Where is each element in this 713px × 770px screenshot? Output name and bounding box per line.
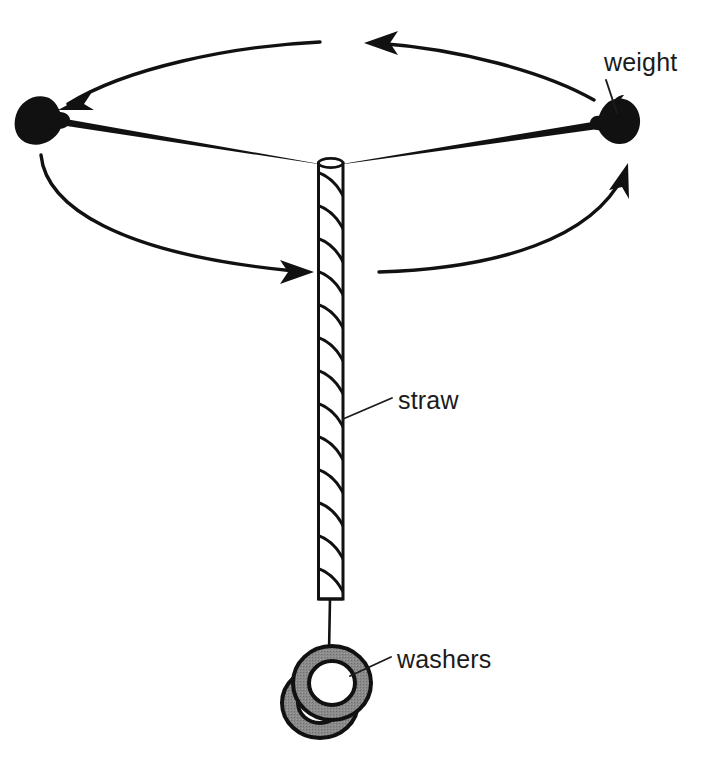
label-straw: straw (398, 388, 459, 413)
arrow-top-left (58, 42, 320, 110)
label-washers: washers (397, 647, 492, 672)
arrow-top-right (364, 31, 594, 100)
arrow-bottom-left (41, 155, 314, 284)
figure-canvas: weight straw washers (0, 0, 713, 770)
weight-left (15, 96, 70, 144)
label-weight: weight (604, 50, 677, 75)
leader-line-straw (343, 398, 392, 419)
spinning-straw-diagram (0, 0, 713, 770)
leader-line-group (343, 80, 617, 676)
arm-left (60, 118, 331, 166)
arrow-bottom-right (379, 163, 629, 272)
straw (317, 158, 345, 599)
washer-front (293, 646, 371, 720)
weight-right (590, 95, 640, 144)
washers (282, 646, 371, 738)
arm-right (330, 121, 598, 166)
